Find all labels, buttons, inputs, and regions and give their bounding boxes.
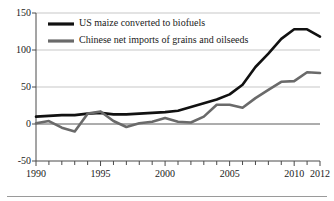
bottom-divider xyxy=(7,196,327,197)
x-axis-tick-label: 1995 xyxy=(81,168,121,179)
gridlines xyxy=(36,13,320,124)
x-axis-tick-label: 1990 xyxy=(16,168,56,179)
y-axis-tick-label: 150 xyxy=(2,7,31,18)
x-axis-tick-label: 2005 xyxy=(210,168,250,179)
legend-item-label-2: Chinese net imports of grains and oilsee… xyxy=(79,34,248,45)
x-axis-tick-label: 2012 xyxy=(300,168,334,179)
chart-container: 150100500-50 199019952000200520102012 US… xyxy=(0,0,334,201)
series-line-2 xyxy=(36,72,320,131)
legend-swatches xyxy=(48,24,74,41)
x-axis-tick-label: 2000 xyxy=(145,168,185,179)
y-axis-tick-label: 50 xyxy=(2,81,31,92)
y-axis-tick-label: 0 xyxy=(2,118,31,129)
y-axis-tick-label: 100 xyxy=(2,44,31,55)
legend-item-label-1: US maize converted to biofuels xyxy=(79,17,205,28)
y-axis-tick-label: -50 xyxy=(2,155,31,166)
